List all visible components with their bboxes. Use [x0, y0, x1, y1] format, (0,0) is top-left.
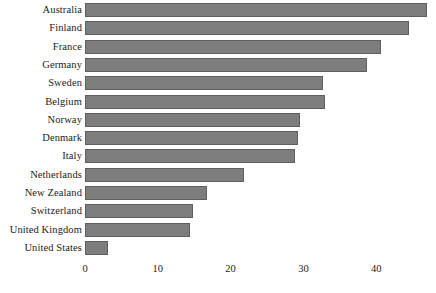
- bar: [85, 21, 409, 35]
- y-axis-label: Norway: [0, 113, 82, 127]
- y-axis-label: Switzerland: [0, 204, 82, 218]
- bar: [85, 131, 298, 145]
- bar: [85, 3, 427, 17]
- bar: [85, 113, 300, 127]
- bar: [85, 95, 325, 109]
- bar: [85, 58, 367, 72]
- x-axis-tick-label: 0: [82, 262, 87, 276]
- bar: [85, 76, 323, 90]
- x-axis-tick-label: 30: [298, 262, 309, 276]
- y-axis-label: Italy: [0, 149, 82, 163]
- y-axis-label: Belgium: [0, 95, 82, 109]
- y-axis-label: United Kingdom: [0, 223, 82, 237]
- bar: [85, 204, 193, 218]
- bar-chart: AustraliaFinlandFranceGermanySwedenBelgi…: [0, 0, 436, 293]
- plot-area: [85, 0, 436, 256]
- y-axis-label: Finland: [0, 21, 82, 35]
- y-axis-label: France: [0, 40, 82, 54]
- x-axis-tick-labels: 010203040: [0, 262, 436, 282]
- bar: [85, 168, 244, 182]
- y-axis-label: Sweden: [0, 76, 82, 90]
- y-axis-label: New Zealand: [0, 186, 82, 200]
- bar: [85, 40, 381, 54]
- bar: [85, 223, 190, 237]
- y-axis-label: Netherlands: [0, 168, 82, 182]
- x-axis-tick-label: 40: [371, 262, 382, 276]
- y-axis-label: Denmark: [0, 131, 82, 145]
- y-axis-label: Australia: [0, 3, 82, 17]
- bar: [85, 149, 295, 163]
- bar: [85, 241, 108, 255]
- y-axis-label: United States: [0, 241, 82, 255]
- y-axis-category-labels: AustraliaFinlandFranceGermanySwedenBelgi…: [0, 0, 82, 256]
- bar: [85, 186, 207, 200]
- x-axis-tick-label: 10: [153, 262, 164, 276]
- x-axis-tick-label: 20: [225, 262, 236, 276]
- y-axis-label: Germany: [0, 58, 82, 72]
